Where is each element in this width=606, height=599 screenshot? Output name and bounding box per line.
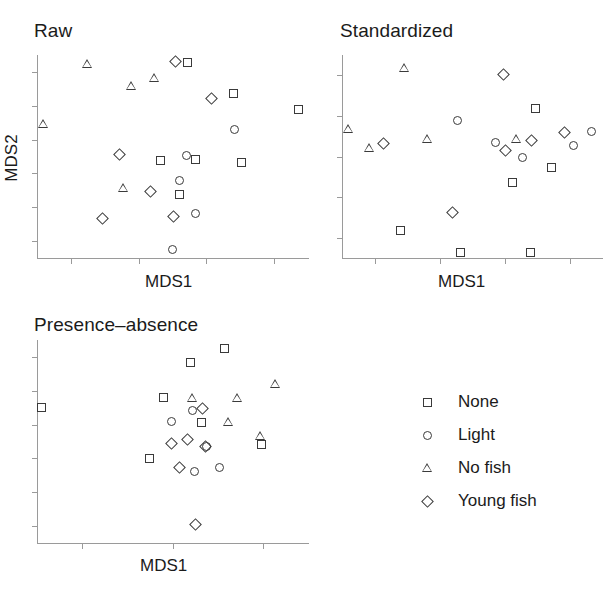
legend-item-light: Light <box>418 425 495 445</box>
legend-marker-square <box>423 398 432 407</box>
data-point-square <box>159 393 168 402</box>
standardized-y-axis-line <box>342 55 343 259</box>
data-point-diamond <box>169 55 182 68</box>
data-point-square <box>156 156 165 165</box>
presence_absence-y-tick <box>32 492 37 493</box>
data-point-triangle <box>232 393 242 402</box>
presence_absence-x-tick <box>263 544 264 549</box>
data-point-diamond <box>558 126 571 139</box>
legend-symbol-circle-icon <box>418 428 436 442</box>
data-point-diamond <box>165 437 178 450</box>
data-point-triangle <box>270 379 280 388</box>
panel-raw-ylabel: MDS2 <box>2 128 22 188</box>
data-point-circle <box>215 463 224 472</box>
data-point-circle <box>190 467 199 476</box>
raw-x-tick <box>274 259 275 264</box>
data-point-diamond <box>113 148 126 161</box>
data-point-diamond <box>181 433 194 446</box>
presence_absence-y-tick <box>32 425 37 426</box>
data-point-triangle <box>511 134 521 143</box>
data-point-square <box>191 155 200 164</box>
legend-item-young-fish: Young fish <box>418 491 537 511</box>
standardized-x-tick <box>570 259 571 264</box>
data-point-square <box>257 440 266 449</box>
legend-label: Light <box>458 425 495 445</box>
data-point-circle <box>182 151 191 160</box>
panel-presence-absence-title: Presence–absence <box>34 314 198 336</box>
data-point-square <box>183 58 192 67</box>
legend-marker-triangle <box>422 463 432 472</box>
legend-symbol-square-icon <box>418 395 436 409</box>
standardized-x-tick <box>375 259 376 264</box>
standardized-y-tick <box>337 116 342 117</box>
data-point-triangle <box>149 73 159 82</box>
data-point-triangle <box>399 63 409 72</box>
data-point-circle <box>569 141 578 150</box>
presence_absence-y-axis-line <box>37 340 38 544</box>
data-point-square <box>145 454 154 463</box>
data-point-diamond <box>499 144 512 157</box>
data-point-triangle <box>343 124 353 133</box>
data-point-circle <box>453 116 462 125</box>
data-point-diamond <box>196 402 209 415</box>
raw-y-tick <box>32 106 37 107</box>
data-point-circle <box>167 417 176 426</box>
data-point-square <box>456 248 465 257</box>
raw-x-tick <box>71 259 72 264</box>
data-point-circle <box>168 245 177 254</box>
data-point-diamond <box>189 518 202 531</box>
standardized-x-tick <box>505 259 506 264</box>
panel-raw-title: Raw <box>34 20 72 42</box>
standardized-x-tick <box>440 259 441 264</box>
data-point-circle <box>191 209 200 218</box>
data-point-circle <box>175 176 184 185</box>
panel-raw-plot-area <box>37 55 308 258</box>
raw-y-tick <box>32 140 37 141</box>
data-point-diamond <box>144 185 157 198</box>
data-point-circle <box>491 138 500 147</box>
standardized-y-tick <box>337 157 342 158</box>
data-point-triangle <box>223 417 233 426</box>
standardized-y-tick <box>337 238 342 239</box>
data-point-square <box>396 226 405 235</box>
data-point-triangle <box>118 183 128 192</box>
raw-y-tick <box>32 241 37 242</box>
data-point-diamond <box>173 462 186 475</box>
panel-standardized: Standardized MDS1 <box>320 0 606 300</box>
panel-presence-absence-plot-area <box>37 340 308 543</box>
data-point-square <box>531 104 540 113</box>
data-point-diamond <box>168 210 181 223</box>
legend-item-none: None <box>418 392 499 412</box>
legend-label: None <box>458 392 499 412</box>
presence_absence-y-tick <box>32 357 37 358</box>
presence_absence-x-tick <box>173 544 174 549</box>
data-point-diamond <box>446 206 459 219</box>
data-point-square <box>37 403 46 412</box>
panel-standardized-title: Standardized <box>340 20 453 42</box>
legend: NoneLightNo fishYoung fish <box>418 392 598 522</box>
data-point-triangle <box>422 134 432 143</box>
panel-standardized-plot-area <box>342 55 602 258</box>
data-point-circle <box>230 125 239 134</box>
panel-standardized-xlabel: MDS1 <box>438 272 485 292</box>
data-point-triangle <box>364 143 374 152</box>
data-point-diamond <box>497 68 510 81</box>
raw-y-tick <box>32 207 37 208</box>
data-point-triangle <box>187 393 197 402</box>
legend-label: No fish <box>458 458 511 478</box>
data-point-diamond <box>377 137 390 150</box>
panel-presence-absence: Presence–absence MDS1 <box>0 300 340 599</box>
standardized-y-tick <box>337 197 342 198</box>
data-point-square <box>186 358 195 367</box>
data-point-square <box>508 178 517 187</box>
data-point-square <box>175 190 184 199</box>
raw-y-tick <box>32 72 37 73</box>
data-point-diamond <box>205 92 218 105</box>
standardized-x-axis-line <box>342 258 603 259</box>
data-point-triangle <box>38 119 48 128</box>
standardized-y-tick <box>337 75 342 76</box>
panel-raw: Raw MDS2 MDS1 <box>0 0 320 300</box>
data-point-diamond <box>525 134 538 147</box>
presence_absence-y-tick <box>32 526 37 527</box>
legend-label: Young fish <box>458 491 537 511</box>
